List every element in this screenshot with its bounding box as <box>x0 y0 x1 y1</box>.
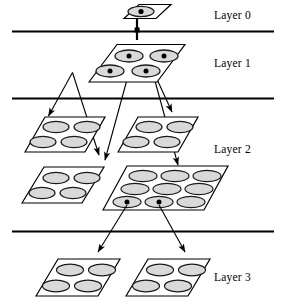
marker-dot-layer2-lr-6 <box>125 200 130 205</box>
cell-layer2-lr-0 <box>129 170 157 181</box>
plane-layer2-upper-left[interactable] <box>25 117 105 152</box>
layer-label-2: Layer 2 <box>214 143 251 155</box>
diagram-canvas: Layer 0 Layer 1 Layer 2 Layer 3 <box>0 0 286 305</box>
plane-layer1[interactable] <box>89 45 185 83</box>
stem-layer0-cap <box>135 28 140 33</box>
plane-layer0[interactable] <box>124 5 171 19</box>
cell-layer3-r-1 <box>179 264 206 276</box>
arrow-l2-to-l3-left <box>98 205 127 252</box>
connector-group-layer3 <box>98 205 185 252</box>
cell-layer3-l-1 <box>89 264 116 276</box>
cell-layer2-ll-0 <box>43 172 69 183</box>
plane-layer2-lower-left[interactable] <box>22 167 104 203</box>
marker-dot-layer2-lr-7 <box>157 200 162 205</box>
cell-layer2-ur-1 <box>167 121 193 132</box>
cell-layer3-r-3 <box>165 280 192 292</box>
arrow-l1-left-to-l2-upper-left <box>49 73 73 117</box>
cell-layer2-lr-4 <box>153 183 181 194</box>
cell-layer3-l-0 <box>57 264 84 276</box>
layer-label-1: Layer 1 <box>214 57 251 69</box>
cell-layer2-ul-0 <box>43 121 69 132</box>
plane-layer3-left[interactable] <box>36 259 120 296</box>
plane-layer3-right[interactable] <box>126 259 210 296</box>
marker-dot-layer0-0 <box>138 9 143 14</box>
cell-layer2-ul-2 <box>30 136 56 147</box>
layer-label-3: Layer 3 <box>214 271 251 283</box>
cell-layer2-lr-3 <box>121 183 149 194</box>
cell-layer3-r-2 <box>133 280 160 292</box>
cell-layer2-ul-1 <box>74 121 100 132</box>
cell-layer2-ur-3 <box>154 136 180 147</box>
cell-layer3-r-0 <box>147 264 174 276</box>
cell-layer2-ll-3 <box>60 187 86 198</box>
cell-layer3-l-2 <box>43 280 70 292</box>
cell-layer2-ll-1 <box>74 172 100 183</box>
cell-layer2-ur-0 <box>136 121 162 132</box>
plane-layer2-upper-right[interactable] <box>118 117 198 152</box>
cell-layer2-lr-2 <box>193 170 221 181</box>
arrow-l2-to-l3-right <box>159 205 185 252</box>
cell-layer2-lr-8 <box>177 196 205 207</box>
cell-layer2-ul-3 <box>61 136 87 147</box>
layer-label-0: Layer 0 <box>214 9 251 21</box>
marker-dot-layer1-3 <box>144 69 149 74</box>
marker-dot-layer1-1 <box>162 54 167 59</box>
marker-dot-layer1-2 <box>108 69 113 74</box>
cell-layer2-ll-2 <box>29 187 55 198</box>
cell-layer2-lr-5 <box>185 183 213 194</box>
cell-layer2-lr-1 <box>161 170 189 181</box>
plane-layer2-lower-right[interactable] <box>103 166 228 210</box>
marker-dot-layer1-0 <box>127 54 132 59</box>
cell-layer2-ur-2 <box>123 136 149 147</box>
cell-layer3-l-3 <box>75 280 102 292</box>
